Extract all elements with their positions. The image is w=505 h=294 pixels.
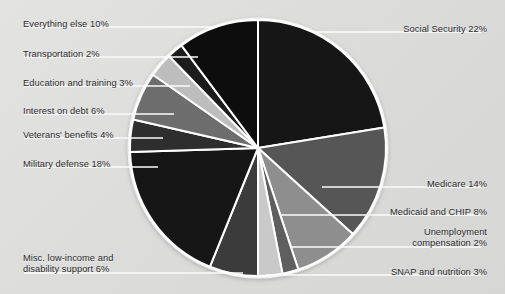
slice-label-social-security: Social Security 22% xyxy=(403,24,487,35)
pie-chart-figure: Everything else 10% Transportation 2% Ed… xyxy=(0,0,505,294)
slice-label-veterans-benefits: Veterans' benefits 4% xyxy=(23,130,114,141)
slice-label-snap-and-nutrition: SNAP and nutrition 3% xyxy=(391,267,487,278)
slice-label-education-and-training: Education and training 3% xyxy=(23,78,133,89)
slice-label-interest-on-debt: Interest on debt 6% xyxy=(23,106,105,117)
slice-label-misc-low-income-and-disability-support: Misc. low-income and disability support … xyxy=(23,253,113,276)
slice-label-medicaid-and-chip: Medicaid and CHIP 8% xyxy=(390,207,487,218)
slice-label-medicare: Medicare 14% xyxy=(427,179,487,190)
slice-label-transportation: Transportation 2% xyxy=(23,49,99,60)
slice-label-military-defense: Military defense 18% xyxy=(23,159,110,170)
slice-label-unemployment-compensation: Unemployment compensation 2% xyxy=(412,227,487,250)
slice-labels-layer: Everything else 10% Transportation 2% Ed… xyxy=(0,0,505,294)
slice-label-everything-else: Everything else 10% xyxy=(23,19,109,30)
